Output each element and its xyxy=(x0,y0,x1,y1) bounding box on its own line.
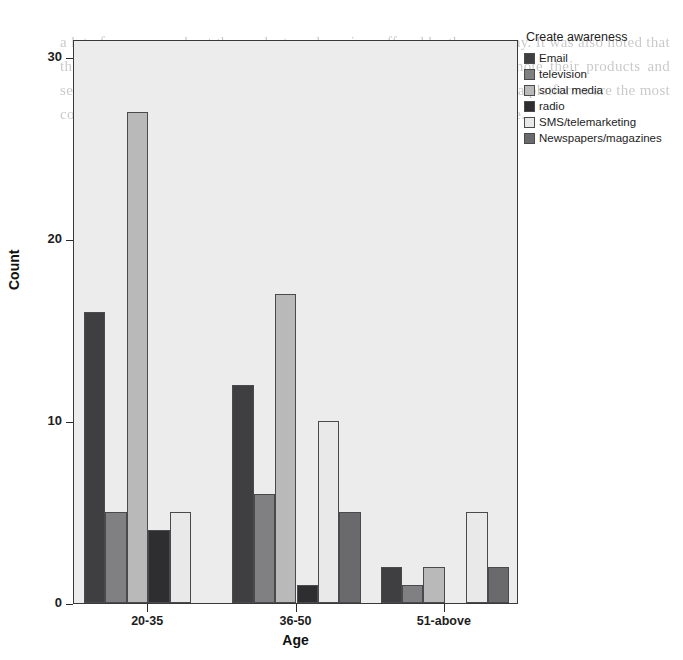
bar xyxy=(297,585,318,603)
x-tick-line xyxy=(147,604,148,612)
legend-entry: Email xyxy=(524,51,679,65)
legend-title: Create awareness xyxy=(526,30,679,44)
y-axis-tick: 10 xyxy=(0,422,73,423)
bar xyxy=(381,567,402,603)
legend-entry-label: Email xyxy=(539,52,568,64)
bar xyxy=(254,494,275,603)
legend-entry: SMS/telemarketing xyxy=(524,115,679,129)
bar xyxy=(148,530,169,603)
y-tick-label: 10 xyxy=(48,413,62,428)
x-axis-label: Age xyxy=(73,632,518,648)
x-tick-label: 51-above xyxy=(384,614,504,628)
plot-area xyxy=(73,40,518,604)
legend-color-swatch xyxy=(524,69,535,80)
y-axis-label: Count xyxy=(6,250,22,290)
bar xyxy=(423,567,444,603)
bar xyxy=(105,512,126,603)
bar-chart: Count 0102030 20-3536-5051-above Age Cre… xyxy=(0,0,683,660)
y-tick-line xyxy=(66,58,73,59)
legend-color-swatch xyxy=(524,133,535,144)
y-tick-line xyxy=(66,604,73,605)
legend-entry-label: radio xyxy=(539,100,565,112)
bar xyxy=(488,567,509,603)
y-axis-tick: 20 xyxy=(0,240,73,241)
bar xyxy=(318,421,339,603)
y-tick-line xyxy=(66,422,73,423)
legend-color-swatch xyxy=(524,117,535,128)
x-tick-line xyxy=(444,604,445,612)
bar xyxy=(466,512,487,603)
bar xyxy=(127,112,148,603)
y-axis-tick: 0 xyxy=(0,604,73,605)
legend-color-swatch xyxy=(524,101,535,112)
bar xyxy=(275,294,296,603)
bar xyxy=(170,512,191,603)
legend-color-swatch xyxy=(524,53,535,64)
y-tick-label: 0 xyxy=(55,595,62,610)
legend-entry-label: television xyxy=(539,68,587,80)
bar xyxy=(232,385,253,603)
bar xyxy=(402,585,423,603)
x-tick-label: 36-50 xyxy=(236,614,356,628)
bar xyxy=(84,312,105,603)
y-tick-label: 20 xyxy=(48,231,62,246)
legend-entries: Emailtelevisionsocial mediaradioSMS/tele… xyxy=(524,51,679,145)
y-tick-line xyxy=(66,240,73,241)
y-axis-tick: 30 xyxy=(0,58,73,59)
legend: Create awareness Emailtelevisionsocial m… xyxy=(524,30,679,147)
x-tick-line xyxy=(296,604,297,612)
legend-color-swatch xyxy=(524,85,535,96)
x-tick-label: 20-35 xyxy=(87,614,207,628)
legend-entry-label: Newspapers/magazines xyxy=(539,132,662,144)
legend-entry: television xyxy=(524,67,679,81)
legend-entry: radio xyxy=(524,99,679,113)
bar xyxy=(339,512,360,603)
legend-entry-label: SMS/telemarketing xyxy=(539,116,636,128)
legend-entry-label: social media xyxy=(539,84,603,96)
legend-entry: Newspapers/magazines xyxy=(524,131,679,145)
y-tick-label: 30 xyxy=(48,49,62,64)
legend-entry: social media xyxy=(524,83,679,97)
